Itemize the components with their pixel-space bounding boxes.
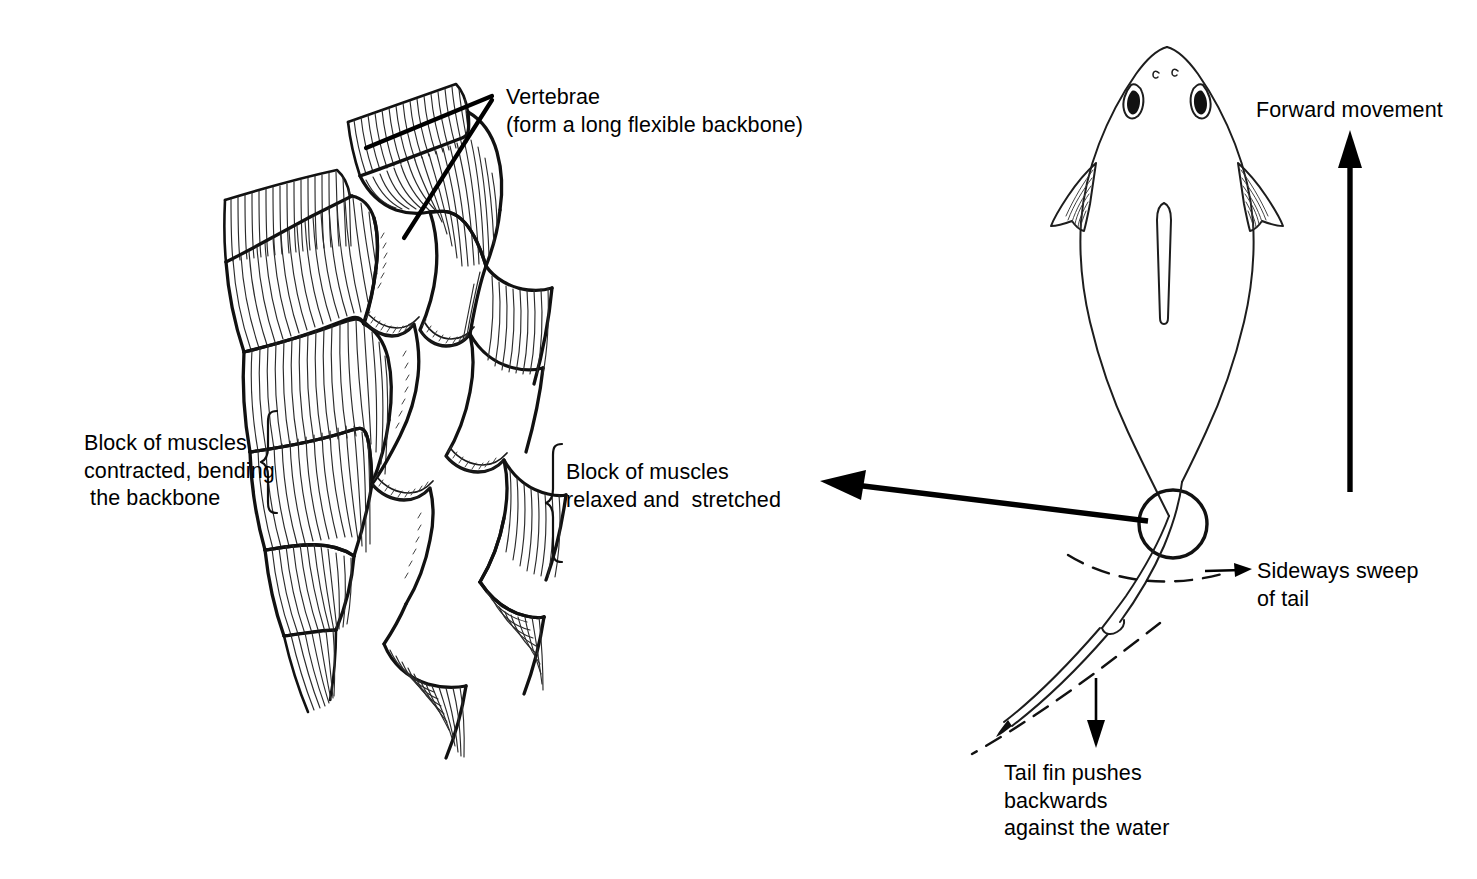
label-tail-fin-pushes-line2: backwards [1004,789,1108,813]
sideways-sweep-arrow [1205,563,1252,577]
thrust-arrow [820,470,1148,521]
forward-movement-arrow [1338,130,1362,492]
label-tail-fin-pushes: Tail fin pushesbackwardsagainst the wate… [1004,760,1169,843]
sweep-arc-dashed [1068,555,1222,582]
label-forward-movement: Forward movement [1256,97,1443,125]
label-sideways-sweep: Sideways sweepof tail [1257,558,1419,613]
muscle-panel [224,84,566,758]
vertebra-joint-4 [446,446,507,472]
label-sideways-sweep-line2: of tail [1257,587,1309,611]
muscle-block-right-3b [463,266,486,340]
fish-body [1080,47,1253,516]
diagram-root: Vertebrae(form a long flexible backbone)… [0,0,1477,879]
vertebra-joint-2 [372,474,433,500]
label-vertebrae-line2: (form a long flexible backbone) [506,113,803,137]
label-muscles-contracted: Block of musclescontracted, bending the … [84,430,275,513]
fish-panel [820,47,1362,754]
label-forward-movement-text: Forward movement [1256,98,1443,122]
label-sideways-sweep-line1: Sideways sweep [1257,559,1419,583]
label-muscles-contracted-line1: Block of muscles [84,431,247,455]
label-muscles-contracted-line2: contracted, bending [84,459,275,483]
column-shading [378,233,421,578]
label-vertebrae: Vertebrae(form a long flexible backbone) [506,84,803,139]
label-muscles-relaxed: Block of musclesrelaxed and stretched [566,459,781,514]
fish-nostrils [1153,69,1178,78]
label-muscles-relaxed-line1: Block of muscles [566,460,729,484]
muscle-block-right-5 [384,582,544,758]
tail-push-arrow [1087,678,1105,748]
label-vertebrae-line1: Vertebrae [506,85,600,109]
label-tail-fin-pushes-line3: against the water [1004,816,1169,840]
muscle-block-left-6 [284,630,336,712]
muscle-block-left-5 [265,544,354,636]
label-muscles-relaxed-line2: relaxed and stretched [566,488,781,512]
label-tail-fin-pushes-line1: Tail fin pushes [1004,761,1142,785]
fish-dorsal-fin [1157,203,1171,324]
label-muscles-contracted-line3: the backbone [84,486,220,510]
